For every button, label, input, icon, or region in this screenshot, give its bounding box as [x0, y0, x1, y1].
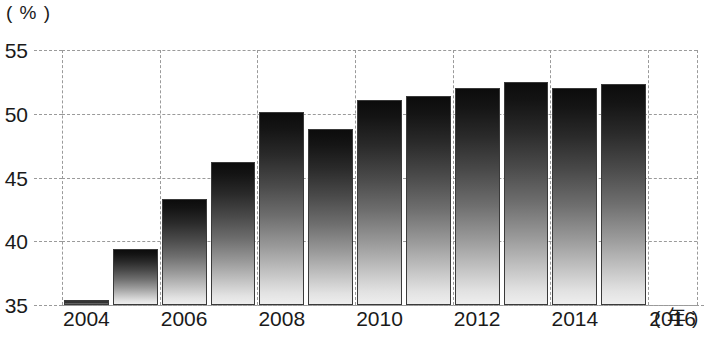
bar: [455, 88, 500, 305]
y-axis-tick-label: 55: [0, 40, 28, 61]
y-gridline-extension: [34, 241, 62, 242]
y-axis-tick-label: 35: [0, 295, 28, 316]
y-axis: 3540455055: [0, 50, 28, 305]
x-axis-tick-label: 2014: [552, 308, 599, 329]
y-axis-unit-label: ( % ): [6, 2, 51, 24]
bar: [601, 84, 646, 305]
bar: [357, 100, 402, 305]
x-axis-tick-label: 2010: [356, 308, 403, 329]
x-axis-tick-label: 2004: [63, 308, 110, 329]
y-axis-tick-label: 50: [0, 103, 28, 124]
x-gridline: [697, 50, 698, 305]
bar: [162, 199, 207, 305]
y-gridline-extension: [34, 50, 62, 51]
bar: [308, 129, 353, 305]
y-axis-tick-label: 40: [0, 231, 28, 252]
x-axis: 2004200620082010201220142016: [62, 308, 697, 340]
y-gridline-extension: [34, 305, 62, 306]
bar: [211, 162, 256, 305]
x-axis-tick-label: 2006: [161, 308, 208, 329]
axis-baseline: [44, 305, 704, 306]
bar: [259, 112, 304, 305]
bars-layer: [62, 50, 697, 305]
y-gridline-extension: [34, 114, 62, 115]
bar-chart: ( % ) 3540455055 20042006200820102012201…: [0, 0, 718, 340]
x-axis-unit-label: ( 年 ): [654, 308, 699, 327]
x-axis-tick-label: 2008: [258, 308, 305, 329]
y-axis-tick-label: 45: [0, 167, 28, 188]
bar: [504, 82, 549, 305]
bar: [552, 88, 597, 305]
bar: [113, 249, 158, 305]
y-gridline-extension: [34, 178, 62, 179]
bar: [406, 96, 451, 305]
x-axis-tick-label: 2012: [454, 308, 501, 329]
